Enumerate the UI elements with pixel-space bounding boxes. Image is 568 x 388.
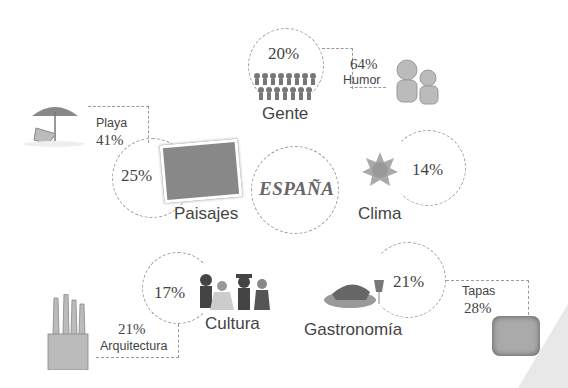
paisajes-label: Paisajes (174, 204, 238, 224)
tapas-percent: 28% (464, 300, 492, 317)
people-crowd-icon (252, 72, 322, 102)
gastronomia-label: Gastronomía (304, 320, 402, 340)
center-title: ESPAÑA (259, 178, 335, 200)
sun-icon (362, 152, 398, 188)
flamenco-people-icon (196, 272, 272, 312)
cultura-label: Cultura (205, 314, 260, 334)
playa-label: Playa (96, 116, 127, 130)
sagrada-familia-icon (44, 294, 92, 370)
tapas-label: Tapas (462, 284, 495, 298)
humor-percent: 64% (350, 56, 378, 73)
clima-label: Clima (358, 204, 401, 224)
gente-percent: 20% (268, 44, 299, 64)
corner-decoration (518, 304, 568, 388)
arquitectura-label: Arquitectura (100, 339, 167, 353)
food-plate-icon (322, 270, 390, 310)
humor-label: Humor (343, 73, 381, 87)
paisajes-percent: 25% (121, 166, 152, 186)
gente-label: Gente (262, 104, 308, 124)
humor-connector-bottom (350, 87, 386, 88)
clima-percent: 14% (412, 160, 443, 180)
playa-percent: 41% (96, 132, 124, 149)
beach-umbrella-icon (20, 98, 88, 148)
arquitectura-percent: 21% (118, 321, 146, 338)
cultura-percent: 17% (154, 283, 185, 303)
landscape-photo-icon (160, 139, 243, 204)
humor-people-icon (392, 56, 442, 106)
gastronomia-percent: 21% (393, 272, 424, 292)
